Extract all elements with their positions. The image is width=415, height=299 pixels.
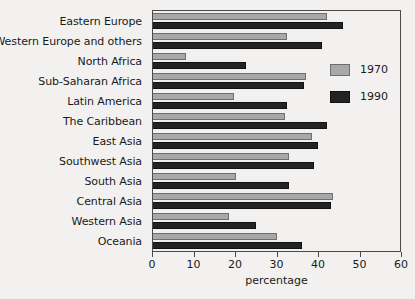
x-tick (277, 252, 278, 257)
category-label: Eastern Europe (0, 11, 148, 31)
bar-1990 (153, 62, 246, 69)
x-tick (401, 252, 402, 257)
x-tick (152, 252, 153, 257)
x-tick (318, 252, 319, 257)
x-tick (360, 252, 361, 257)
bar-group (153, 31, 401, 51)
bar-1970 (153, 153, 289, 160)
bar-1990 (153, 142, 318, 149)
bar-1970 (153, 93, 234, 100)
category-label: Southwest Asia (0, 151, 148, 171)
bar-1990 (153, 122, 327, 129)
x-tick-label: 50 (353, 258, 367, 271)
bar-1970 (153, 13, 327, 20)
bar-1990 (153, 102, 287, 109)
x-tick-label: 20 (228, 258, 242, 271)
x-tick (235, 252, 236, 257)
bar-1990 (153, 162, 314, 169)
bar-1990 (153, 242, 302, 249)
category-label: Western Asia (0, 211, 148, 231)
bar-1970 (153, 133, 312, 140)
category-label: Central Asia (0, 191, 148, 211)
bar-group (153, 131, 401, 151)
legend-label: 1970 (360, 63, 388, 76)
bar-group (153, 171, 401, 191)
legend-label: 1990 (360, 90, 388, 103)
x-tick-label: 40 (311, 258, 325, 271)
category-label: The Caribbean (0, 111, 148, 131)
bar-1970 (153, 233, 277, 240)
legend-item-1990: 1990 (330, 90, 388, 103)
x-tick-label: 10 (187, 258, 201, 271)
bar-group (153, 151, 401, 171)
x-tick-label: 0 (149, 258, 156, 271)
bar-group (153, 231, 401, 251)
bar-1990 (153, 202, 331, 209)
x-tick-label: 30 (270, 258, 284, 271)
category-axis-labels: Eastern Europe Western Europe and others… (0, 11, 148, 251)
bar-group (153, 211, 401, 231)
x-tick (194, 252, 195, 257)
bar-1970 (153, 173, 236, 180)
bar-1970 (153, 193, 333, 200)
bar-1990 (153, 22, 343, 29)
bar-1990 (153, 82, 304, 89)
x-tick-label: 60 (394, 258, 408, 271)
category-label: Sub-Saharan Africa (0, 71, 148, 91)
bar-1970 (153, 213, 229, 220)
chart-legend: 1970 1990 (330, 63, 388, 117)
bar-rows (153, 11, 401, 251)
bar-1970 (153, 33, 287, 40)
legend-item-1970: 1970 (330, 63, 388, 76)
bar-chart: Eastern Europe Western Europe and others… (0, 0, 415, 299)
category-label: Oceania (0, 231, 148, 251)
bar-1970 (153, 73, 306, 80)
bar-group (153, 191, 401, 211)
category-label: Western Europe and others (0, 31, 148, 51)
bar-1970 (153, 113, 285, 120)
bar-1990 (153, 42, 322, 49)
category-label: Latin America (0, 91, 148, 111)
legend-swatch-icon (330, 91, 350, 103)
x-axis-title: percentage (152, 274, 401, 287)
bar-1970 (153, 53, 186, 60)
category-label: North Africa (0, 51, 148, 71)
bar-1990 (153, 182, 289, 189)
x-axis-tick-labels: 0102030405060 (0, 258, 415, 274)
bar-1990 (153, 222, 256, 229)
bar-group (153, 11, 401, 31)
category-label: East Asia (0, 131, 148, 151)
category-label: South Asia (0, 171, 148, 191)
legend-swatch-icon (330, 64, 350, 76)
